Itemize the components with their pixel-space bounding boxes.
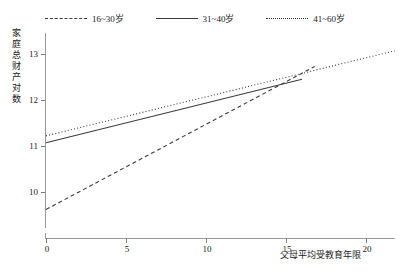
series-lines: [46, 51, 395, 210]
y-axis-ticks: [41, 55, 45, 193]
y-axis-title: 家庭总财产对数: [10, 28, 23, 105]
y-tick-label-13: 13: [22, 50, 38, 59]
x-tick-label-5: 5: [117, 245, 137, 254]
series-line-31-40: [46, 79, 302, 142]
y-tick-label-10: 10: [22, 188, 38, 197]
series-line-41-60: [46, 51, 395, 136]
x-tick-label-0: 0: [37, 245, 57, 254]
plot-area: [0, 0, 404, 275]
chart-figure: 16~30岁 31~40岁 41~60岁: [0, 0, 404, 275]
y-tick-label-12: 12: [22, 96, 38, 105]
x-tick-label-10: 10: [197, 245, 217, 254]
x-axis-title: 父母平均受教育年限: [280, 250, 361, 260]
y-tick-label-11: 11: [22, 142, 38, 151]
series-line-16-30: [46, 66, 315, 209]
